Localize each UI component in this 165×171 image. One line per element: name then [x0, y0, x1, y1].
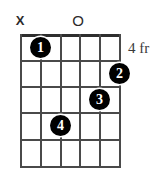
fret-line: [20, 112, 121, 114]
fret-line: [20, 60, 121, 62]
fret-line: [20, 139, 121, 141]
fret-position-label: 4 fr: [128, 40, 149, 57]
guitar-chord-diagram: X O 1 2 3 4 4 fr: [0, 0, 165, 171]
finger-dot-1[interactable]: 1: [30, 37, 51, 58]
open-string-marker: O: [70, 13, 86, 29]
string-line: [60, 34, 62, 168]
string-line: [79, 34, 81, 168]
finger-dot-2[interactable]: 2: [109, 63, 130, 84]
string-line: [119, 34, 121, 168]
muted-string-marker: X: [12, 13, 28, 29]
fret-line: [20, 86, 121, 88]
finger-dot-4[interactable]: 4: [50, 115, 71, 136]
finger-dot-3[interactable]: 3: [89, 89, 110, 110]
nut-line: [20, 34, 121, 37]
fret-line: [20, 166, 121, 168]
string-line: [20, 34, 22, 168]
